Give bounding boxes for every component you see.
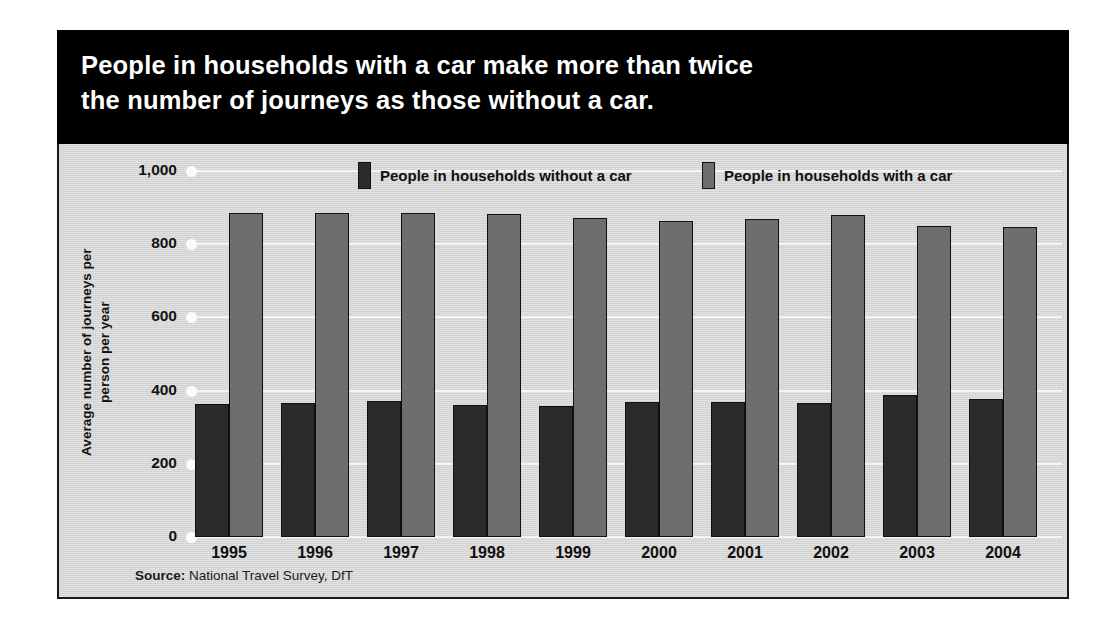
bar[interactable] (539, 406, 573, 537)
bar[interactable] (745, 219, 779, 537)
x-axis-tick-label: 2001 (700, 544, 790, 562)
bar-group (539, 157, 608, 537)
source-text: National Travel Survey, DfT (185, 568, 353, 583)
bar[interactable] (573, 218, 607, 537)
source-label: Source: (135, 568, 185, 583)
x-axis-tick-label: 1995 (184, 544, 274, 562)
bar[interactable] (281, 403, 315, 537)
x-axis-tick-label: 2002 (786, 544, 876, 562)
legend-label: People in households with a car (724, 167, 952, 184)
x-axis-tick-label: 1998 (442, 544, 532, 562)
title-banner: People in households with a car make mor… (57, 30, 1069, 144)
x-axis-tick-label: 2003 (872, 544, 962, 562)
bar-group (625, 157, 694, 537)
y-axis-tick-label: 200 (67, 454, 177, 472)
y-axis-tick-label: 800 (67, 234, 177, 252)
x-axis-tick-label: 1996 (270, 544, 360, 562)
legend-swatch-icon (358, 162, 371, 189)
bar[interactable] (315, 213, 349, 537)
legend-swatch-icon (702, 162, 715, 189)
legend-item-without-car[interactable]: People in households without a car (358, 162, 632, 189)
bar-group (711, 157, 780, 537)
bar-group (367, 157, 436, 537)
chart-panel: Average number of journeys per person pe… (57, 144, 1069, 599)
bar-group (281, 157, 350, 537)
bar[interactable] (367, 401, 401, 537)
chart-page: People in households with a car make mor… (0, 0, 1120, 619)
bar-group (969, 157, 1038, 537)
y-axis-tick-label: 0 (67, 527, 177, 545)
legend-label: People in households without a car (380, 167, 632, 184)
y-axis-tick-label: 400 (67, 381, 177, 399)
bar[interactable] (969, 399, 1003, 537)
x-axis-tick-label: 2000 (614, 544, 704, 562)
bar[interactable] (401, 213, 435, 537)
bar[interactable] (487, 214, 521, 537)
bar-group (797, 157, 866, 537)
bar[interactable] (453, 405, 487, 537)
x-axis-tick-label: 2004 (958, 544, 1048, 562)
bar[interactable] (195, 404, 229, 537)
bar[interactable] (229, 213, 263, 537)
bar[interactable] (831, 215, 865, 537)
x-axis-tick-label: 1999 (528, 544, 618, 562)
bar[interactable] (659, 221, 693, 537)
bar[interactable] (883, 395, 917, 537)
page-title: People in households with a car make mor… (81, 48, 1045, 118)
bar[interactable] (797, 403, 831, 537)
bar-group (883, 157, 952, 537)
bar[interactable] (917, 226, 951, 537)
bar-group (195, 157, 264, 537)
x-axis-tick-label: 1997 (356, 544, 446, 562)
y-axis-tick-label: 600 (67, 307, 177, 325)
legend-item-with-car[interactable]: People in households with a car (702, 162, 952, 189)
plot-area: Average number of journeys per person pe… (59, 144, 1069, 599)
source-note: Source: National Travel Survey, DfT (135, 568, 353, 583)
bar-group (453, 157, 522, 537)
bar[interactable] (711, 402, 745, 537)
bar[interactable] (625, 402, 659, 537)
bar[interactable] (1003, 227, 1037, 537)
y-axis-tick-label: 1,000 (67, 161, 177, 179)
